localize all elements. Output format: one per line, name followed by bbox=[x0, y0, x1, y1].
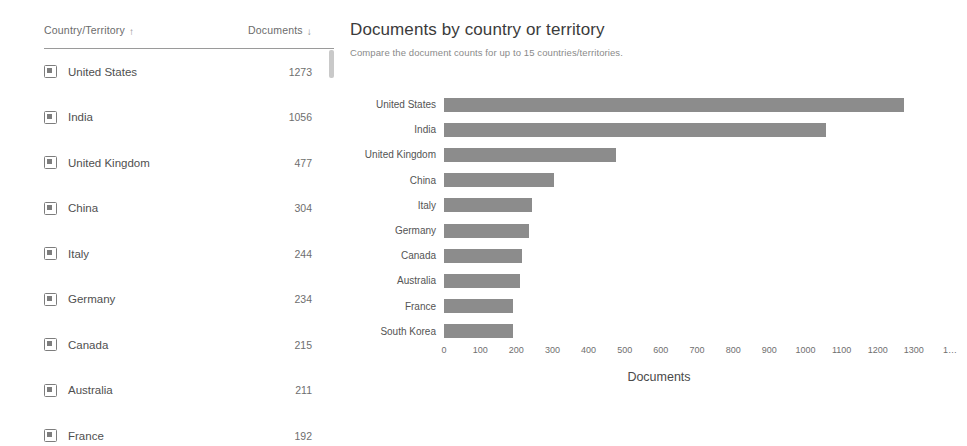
x-axis-tick-label: 500 bbox=[617, 345, 632, 355]
bar-category-label: United States bbox=[350, 99, 444, 110]
table-cell-documents: 215 bbox=[294, 339, 312, 351]
x-axis-tick-label: 800 bbox=[726, 345, 741, 355]
country-badge-icon bbox=[44, 293, 57, 306]
bar[interactable] bbox=[444, 148, 616, 162]
x-axis-tick-label: 1100 bbox=[832, 345, 851, 355]
bar[interactable] bbox=[444, 123, 826, 137]
x-axis-tick-label: 0 bbox=[441, 345, 446, 355]
bar-category-label: France bbox=[350, 301, 444, 312]
column-header-documents-label: Documents bbox=[248, 24, 303, 36]
table-cell-documents: 192 bbox=[294, 430, 312, 442]
bar-track bbox=[444, 117, 950, 142]
x-axis-tick-label: 300 bbox=[545, 345, 560, 355]
x-axis-tick-label: 400 bbox=[581, 345, 596, 355]
table-cell-documents: 244 bbox=[294, 248, 312, 260]
x-axis-ticks: 0100200300400500600700800900100011001200… bbox=[444, 345, 950, 365]
chart-title: Documents by country or territory bbox=[350, 20, 950, 40]
bar[interactable] bbox=[444, 324, 513, 338]
table-cell-country: France bbox=[68, 430, 104, 442]
table-cell-documents: 304 bbox=[294, 202, 312, 214]
table-row[interactable]: India1056 bbox=[44, 95, 334, 141]
bar[interactable] bbox=[444, 173, 554, 187]
table-row[interactable]: United Kingdom477 bbox=[44, 140, 334, 186]
bar-track bbox=[444, 92, 950, 117]
bar[interactable] bbox=[444, 299, 513, 313]
table-cell-country: China bbox=[68, 202, 98, 214]
country-badge-icon bbox=[44, 384, 57, 397]
bar-track bbox=[444, 294, 950, 319]
bar-row: United States bbox=[350, 92, 950, 117]
table-scrollbar-thumb[interactable] bbox=[329, 50, 334, 78]
table-row[interactable]: Italy244 bbox=[44, 231, 334, 277]
country-badge-icon bbox=[44, 247, 57, 260]
country-badge-icon bbox=[44, 111, 57, 124]
bar-category-label: United Kingdom bbox=[350, 149, 444, 160]
x-axis-tick-label: 200 bbox=[509, 345, 524, 355]
bar-category-label: Germany bbox=[350, 225, 444, 236]
country-badge-icon bbox=[44, 65, 57, 78]
bar[interactable] bbox=[444, 274, 520, 288]
chart-subtitle: Compare the document counts for up to 15… bbox=[350, 47, 950, 58]
country-badge-icon bbox=[44, 202, 57, 215]
bar-track bbox=[444, 319, 950, 344]
table-cell-documents: 1056 bbox=[289, 111, 312, 123]
bar-row: Australia bbox=[350, 268, 950, 293]
bar-track bbox=[444, 142, 950, 167]
bar-series: United StatesIndiaUnited KingdomChinaIta… bbox=[350, 92, 950, 344]
table-row[interactable]: Canada215 bbox=[44, 322, 334, 368]
table-cell-country: United Kingdom bbox=[68, 157, 150, 169]
bar-category-label: South Korea bbox=[350, 326, 444, 337]
bar[interactable] bbox=[444, 224, 529, 238]
bar-track bbox=[444, 193, 950, 218]
bar-track bbox=[444, 168, 950, 193]
bar-row: United Kingdom bbox=[350, 142, 950, 167]
x-axis-tick-label: 100 bbox=[473, 345, 488, 355]
table-row[interactable]: France192 bbox=[44, 413, 334, 446]
bar[interactable] bbox=[444, 249, 522, 263]
table-scrollbar[interactable] bbox=[329, 50, 334, 380]
table-row[interactable]: China304 bbox=[44, 186, 334, 232]
table-row[interactable]: Germany234 bbox=[44, 277, 334, 323]
x-axis-tick-label: 600 bbox=[653, 345, 668, 355]
table-cell-documents: 211 bbox=[295, 384, 312, 396]
bar-category-label: Australia bbox=[350, 275, 444, 286]
bar-track bbox=[444, 218, 950, 243]
sort-ascending-arrow-icon[interactable]: ↑ bbox=[129, 26, 134, 37]
table-body: United States1273India1056United Kingdom… bbox=[44, 49, 334, 446]
country-badge-icon bbox=[44, 429, 57, 442]
table-cell-documents: 1273 bbox=[289, 66, 312, 78]
table-cell-country: India bbox=[68, 111, 93, 123]
bar-category-label: India bbox=[350, 124, 444, 135]
bar-row: South Korea bbox=[350, 319, 950, 344]
sort-descending-arrow-icon[interactable]: ↓ bbox=[307, 26, 312, 37]
table-row[interactable]: United States1273 bbox=[44, 49, 334, 95]
x-axis-tick-label: 1000 bbox=[795, 345, 815, 355]
table-row[interactable]: Australia211 bbox=[44, 368, 334, 414]
x-axis-tick-label: 700 bbox=[689, 345, 704, 355]
bar-track bbox=[444, 243, 950, 268]
x-axis-tick-label: 1300 bbox=[904, 345, 924, 355]
bar-category-label: China bbox=[350, 175, 444, 186]
bar-category-label: Canada bbox=[350, 250, 444, 261]
bar-row: Germany bbox=[350, 218, 950, 243]
bar-category-label: Italy bbox=[350, 200, 444, 211]
table-cell-country: United States bbox=[68, 66, 137, 78]
chart-panel: Documents by country or territory Compar… bbox=[350, 20, 950, 410]
x-axis-tick-label: 1200 bbox=[868, 345, 888, 355]
bar-row: Italy bbox=[350, 193, 950, 218]
bar-row: Canada bbox=[350, 243, 950, 268]
column-header-country-label: Country/Territory bbox=[44, 24, 125, 36]
column-header-country[interactable]: Country/Territory↑ bbox=[44, 24, 134, 37]
country-documents-table: Country/Territory↑ Documents↓ United Sta… bbox=[44, 24, 334, 414]
bar-row: France bbox=[350, 294, 950, 319]
bar[interactable] bbox=[444, 98, 904, 112]
country-badge-icon bbox=[44, 338, 57, 351]
bar-row: China bbox=[350, 168, 950, 193]
table-cell-country: Australia bbox=[68, 384, 113, 396]
bar[interactable] bbox=[444, 198, 532, 212]
table-cell-documents: 477 bbox=[294, 157, 312, 169]
x-axis-tick-label: 900 bbox=[762, 345, 777, 355]
column-header-documents[interactable]: Documents↓ bbox=[248, 24, 312, 37]
bar-track bbox=[444, 268, 950, 293]
bar-chart-plot-area: United StatesIndiaUnited KingdomChinaIta… bbox=[350, 92, 950, 382]
